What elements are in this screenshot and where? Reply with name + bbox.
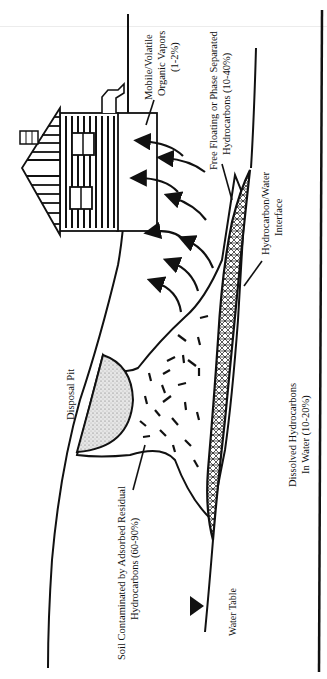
svg-text:Water Table: Water Table — [227, 587, 238, 636]
svg-text:Interface: Interface — [273, 198, 284, 236]
label-water-table: Water Table — [227, 587, 238, 636]
label-soil: Soil Contaminated by Adsorbed Residual H… — [116, 486, 141, 660]
svg-text:Dissolved Hydrocarbons: Dissolved Hydrocarbons — [287, 383, 298, 487]
hydrocarbon-diagram: Mobile/Volatile Organic Vapors (1-2%) Fr… — [0, 0, 327, 679]
label-free-floating: Free Floating or Phase Separated Hydroca… — [208, 30, 233, 170]
aquifer-boundary-line — [319, 10, 322, 672]
label-dissolved: Dissolved Hydrocarbons In Water (10-20%) — [287, 383, 312, 487]
label-interface: Hydrocarbon/Water Interface — [260, 171, 284, 255]
house-icon — [20, 84, 157, 235]
label-disposal-pit: Disposal Pit — [65, 369, 76, 420]
svg-text:Mobile/Volatile: Mobile/Volatile — [143, 34, 154, 100]
svg-text:Free Floating or Phase Separat: Free Floating or Phase Separated — [208, 30, 219, 170]
svg-text:(1-2%): (1-2%) — [169, 42, 181, 72]
svg-text:Hydrocarbons (10-40%): Hydrocarbons (10-40%) — [221, 52, 233, 155]
label-vapors: Mobile/Volatile Organic Vapors (1-2%) — [143, 31, 181, 100]
svg-text:Hydrocarbon/Water: Hydrocarbon/Water — [260, 171, 271, 255]
svg-text:Hydrocarbons (60-90%): Hydrocarbons (60-90%) — [129, 517, 141, 620]
water-table-triangle-icon — [190, 596, 204, 616]
svg-text:Soil Contaminated by Adsorbed: Soil Contaminated by Adsorbed Residual — [116, 486, 127, 660]
svg-text:Disposal Pit: Disposal Pit — [65, 369, 76, 420]
svg-text:Organic Vapors: Organic Vapors — [156, 31, 167, 96]
svg-text:In Water (10-20%): In Water (10-20%) — [300, 395, 312, 474]
